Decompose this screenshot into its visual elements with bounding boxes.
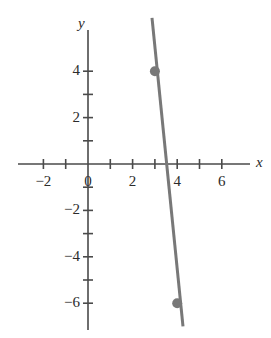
x-tick-label: 4 [163, 174, 191, 189]
y-tick-label: −6 [48, 295, 80, 310]
y-tick-label: 4 [48, 63, 80, 78]
y-tick-label: 2 [48, 110, 80, 125]
data-point [150, 66, 160, 76]
y-tick-label: −2 [48, 202, 80, 217]
x-tick-label: −2 [29, 174, 57, 189]
x-tick-label: 0 [74, 174, 102, 189]
plot-canvas [0, 0, 271, 338]
data-point [172, 298, 182, 308]
x-tick-label: 6 [208, 174, 236, 189]
y-tick-label: −4 [48, 249, 80, 264]
coordinate-plane-figure: x y −20246 42−2−4−6 [0, 0, 271, 338]
x-axis-label: x [256, 155, 263, 170]
y-axis-label: y [78, 16, 85, 31]
x-tick-label: 2 [119, 174, 147, 189]
